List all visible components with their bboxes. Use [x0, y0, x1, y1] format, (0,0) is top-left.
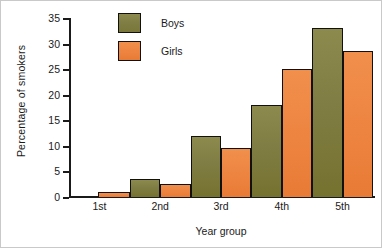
y-axis-tick-label: 35: [48, 12, 60, 24]
legend-label-boys: Boys: [161, 17, 184, 29]
bar-boys-4th: [251, 105, 281, 197]
bar-girls-3rd: [221, 148, 251, 197]
bar-series-container: [69, 18, 373, 197]
bar-boys-5th: [312, 28, 342, 197]
legend-item-boys: Boys: [118, 13, 184, 33]
x-axis-tick-labels: 1st2nd3rd4th5th: [69, 200, 373, 212]
y-axis-tick-label: 0: [54, 191, 60, 203]
y-axis-title-text: Percentage of smokers: [15, 45, 27, 157]
bar-group: [312, 18, 373, 197]
x-axis-tick-label: 3rd: [191, 200, 252, 212]
bar-group: [251, 18, 312, 197]
y-axis-tick-label: 10: [48, 140, 60, 152]
legend-swatch-girls-icon: [118, 41, 141, 61]
chart-figure: Percentage of smokers 05101520253035 1st…: [0, 0, 382, 248]
bar-girls-5th: [343, 51, 373, 197]
x-axis-title: Year group: [69, 225, 373, 237]
x-axis-tick-label: 4th: [251, 200, 312, 212]
x-axis-tick-label: 1st: [69, 200, 130, 212]
y-axis-tick-label: 25: [48, 63, 60, 75]
bar-boys-3rd: [191, 136, 221, 197]
chart-legend: Boys Girls: [118, 13, 184, 69]
bar-girls-2nd: [160, 184, 190, 197]
bar-girls-4th: [282, 69, 312, 197]
legend-item-girls: Girls: [118, 41, 184, 61]
plot-area: 05101520253035: [69, 18, 373, 197]
y-axis-title: Percentage of smokers: [9, 1, 33, 201]
legend-swatch-boys-icon: [118, 13, 141, 33]
y-axis-tick: [63, 197, 69, 199]
y-axis-tick-label: 20: [48, 89, 60, 101]
x-axis-tick-label: 2nd: [130, 200, 191, 212]
y-axis-tick-label: 30: [48, 38, 60, 50]
y-axis-tick-label: 5: [54, 165, 60, 177]
bar-group: [191, 18, 252, 197]
bar-girls-1st: [98, 192, 129, 197]
legend-label-girls: Girls: [161, 45, 183, 57]
y-axis-tick-label: 15: [48, 114, 60, 126]
bar-boys-2nd: [130, 179, 160, 197]
x-axis-tick-label: 5th: [312, 200, 373, 212]
